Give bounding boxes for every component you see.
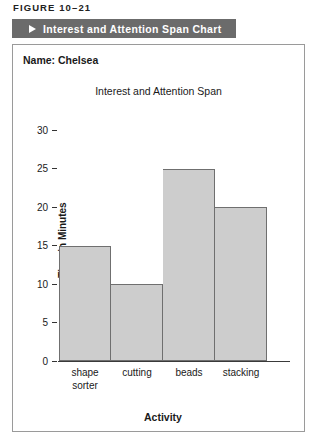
chart-title: Interest and Attention Span	[13, 85, 304, 97]
figure-title-bar: Interest and Attention Span Chart	[12, 19, 236, 38]
y-axis-tick-label: 0	[42, 356, 48, 367]
bar-chart-plot: Time in Minutes 302520151050 shapesorter…	[58, 115, 293, 365]
x-axis-tick-label: stacking	[215, 367, 267, 392]
y-axis-tick-mark	[52, 168, 57, 169]
chart-panel: Name: Chelsea Interest and Attention Spa…	[12, 44, 305, 432]
figure-caption: FIGURE 10–21	[13, 2, 91, 13]
bar-column	[163, 115, 215, 361]
x-axis-baseline	[58, 361, 290, 362]
play-triangle-icon	[29, 25, 36, 33]
y-axis-tick-mark	[52, 361, 57, 362]
y-axis-tick-label: 5	[42, 317, 48, 328]
bar	[215, 207, 267, 361]
x-axis-tick-labels: shapesortercuttingbeadsstacking	[59, 367, 267, 392]
y-axis-tick-mark	[52, 284, 57, 285]
bar-column	[59, 115, 111, 361]
bar	[111, 284, 163, 361]
bar-group	[59, 115, 267, 361]
y-axis-tick-mark	[52, 245, 57, 246]
x-axis-tick-label: beads	[163, 367, 215, 392]
y-axis-tick-label: 30	[37, 125, 48, 136]
y-axis-tick-mark	[52, 322, 57, 323]
bar	[163, 169, 215, 361]
figure-title-label: Interest and Attention Span Chart	[43, 23, 222, 35]
bar-column	[111, 115, 163, 361]
y-axis-tick-label: 15	[37, 240, 48, 251]
y-axis-tick-mark	[52, 130, 57, 131]
y-axis-tick-label: 20	[37, 202, 48, 213]
y-axis-tick-label: 25	[37, 163, 48, 174]
x-axis-label: Activity	[59, 411, 267, 423]
student-name-line: Name: Chelsea	[23, 54, 98, 66]
x-axis-tick-label: shapesorter	[59, 367, 111, 392]
y-axis-tick-mark	[52, 207, 57, 208]
bar-column	[215, 115, 267, 361]
y-axis-tick-label: 10	[37, 279, 48, 290]
bar	[59, 246, 111, 361]
x-axis-tick-label: cutting	[111, 367, 163, 392]
